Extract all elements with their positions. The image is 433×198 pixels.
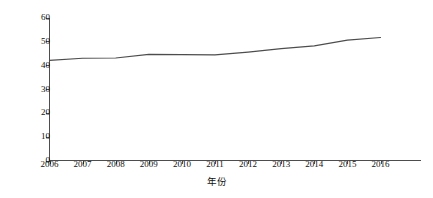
service-sector-gdp-line-chart: 0102030405060 20062007200820092010201120… <box>0 0 433 198</box>
x-axis-title: 年份 <box>0 174 433 188</box>
y-axis-tick-label: 40 <box>30 61 50 70</box>
y-axis-tick-label: 10 <box>30 132 50 141</box>
data-series-line <box>50 38 381 61</box>
x-axis-tick-labels: 2006200720082009201020112012201320142015… <box>0 160 433 174</box>
chart-axes <box>46 18 421 165</box>
chart-series-group <box>50 38 381 61</box>
y-axis-tick-label: 30 <box>30 85 50 94</box>
y-axis-tick-label: 60 <box>30 13 50 22</box>
x-axis-tick-label: 2016 <box>361 160 401 169</box>
y-axis-tick-label: 50 <box>30 37 50 46</box>
y-axis-tick-label: 20 <box>30 108 50 117</box>
